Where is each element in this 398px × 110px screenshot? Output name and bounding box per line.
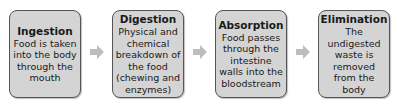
step-title: Elimination — [321, 13, 388, 25]
step-digestion: Digestion Physical and chemical breakdow… — [112, 10, 184, 98]
step-description: The undigested waste is removed from the… — [321, 26, 387, 95]
step-description: Food passes through the intestine walls … — [218, 32, 284, 90]
arrow-right-icon — [193, 45, 207, 59]
step-description: Physical and chemical breakdown of the f… — [115, 26, 181, 95]
step-description: Food is taken into the body through the … — [12, 38, 78, 84]
step-title: Ingestion — [17, 25, 73, 37]
step-title: Digestion — [120, 13, 177, 25]
arrow-right-icon — [90, 45, 104, 59]
step-absorption: Absorption Food passes through the intes… — [215, 10, 287, 98]
step-ingestion: Ingestion Food is taken into the body th… — [9, 10, 81, 98]
step-elimination: Elimination The undigested waste is remo… — [318, 10, 390, 98]
step-title: Absorption — [218, 19, 283, 31]
arrow-right-icon — [296, 45, 310, 59]
